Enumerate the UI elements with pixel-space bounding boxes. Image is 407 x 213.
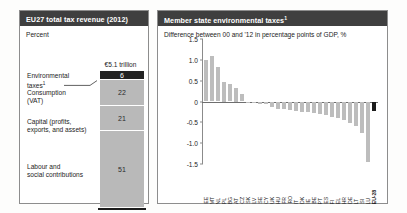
bar	[210, 56, 214, 102]
category-line-1: Consumption	[27, 89, 66, 96]
x-tick-label-group: EEMTNLPLBGATCZSKLVSECYUKHUFRROITDKIEBEPT…	[203, 166, 379, 204]
bar-chart: 1.51.00.50-0.5-1.0-1.5 EEMTNLPLBGATCZSKL…	[158, 33, 389, 205]
bar	[318, 102, 322, 115]
right-panel-header: Member state environmental taxes1	[158, 11, 387, 26]
stack-segment-value: 51	[118, 166, 126, 173]
category-line-2: (VAT)	[27, 97, 43, 104]
left-panel-body: €5.1 trillion 6 22 21 51 E	[20, 38, 148, 213]
category-label-capital: Capital (profits, exports, and assets)	[27, 118, 97, 134]
y-tick-label: -1.5	[187, 161, 198, 168]
stack-segment-environmental: 6	[100, 71, 144, 80]
left-panel-subtitle: Percent	[20, 26, 148, 38]
footnote-marker: 1	[43, 81, 46, 86]
bar-group	[203, 39, 378, 164]
y-tick-label: 1.5	[189, 36, 198, 43]
category-line-2: exports, and assets)	[27, 126, 86, 133]
figure-root: EU27 total tax revenue (2012) Percent €5…	[0, 0, 407, 213]
stacked-bar-caption: €5.1 trillion	[96, 61, 145, 68]
y-tick-label: -1.0	[187, 140, 198, 147]
bar	[324, 102, 328, 116]
panel-eu27-tax-revenue: EU27 total tax revenue (2012) Percent €5…	[19, 10, 149, 204]
bar	[336, 102, 340, 119]
stack-segment-capital: 21	[100, 106, 144, 131]
bar	[300, 102, 304, 112]
bar	[246, 102, 250, 103]
left-panel-header-text: EU27 total tax revenue (2012)	[26, 15, 128, 24]
chart-plot-area: 1.51.00.50-0.5-1.0-1.5	[202, 39, 378, 164]
bar	[288, 102, 292, 110]
stack-segment-value: 21	[118, 115, 126, 122]
bar	[222, 82, 226, 102]
bar	[216, 67, 220, 101]
stack-segment-value: 6	[120, 72, 124, 79]
bar	[330, 102, 334, 117]
left-panel-header: EU27 total tax revenue (2012)	[20, 11, 148, 26]
bar	[354, 102, 358, 126]
category-line-2: social contributions	[27, 171, 83, 178]
category-label-consumption: Consumption (VAT)	[27, 89, 97, 105]
y-tick-label: 0.5	[189, 77, 198, 84]
stack-segment-value: 22	[118, 89, 126, 96]
bar	[252, 102, 256, 103]
x-tick-label: EU-28	[371, 190, 377, 204]
bar	[264, 102, 268, 105]
bar	[306, 102, 310, 113]
bar	[276, 102, 280, 109]
bar	[282, 102, 286, 110]
y-tick-label: -0.5	[187, 119, 198, 126]
bar	[270, 102, 274, 107]
category-line-1: Environmental	[27, 72, 69, 79]
right-panel-header-text: Member state environmental taxes	[164, 16, 284, 25]
stacked-bar: 6 22 21 51	[100, 71, 144, 207]
stacked-bar-baseline	[98, 208, 146, 210]
category-line-1: Labour and	[27, 163, 60, 170]
bar	[372, 102, 376, 111]
y-tick-label: 0	[194, 98, 198, 105]
panel-member-state-env-taxes: Member state environmental taxes1 Differ…	[157, 10, 388, 204]
category-line-2: taxes	[27, 82, 43, 89]
bar	[366, 102, 370, 162]
y-tick-label: 1.0	[189, 56, 198, 63]
bar	[228, 84, 232, 101]
bar	[204, 60, 208, 102]
bar	[240, 94, 244, 101]
bar	[258, 102, 262, 104]
bar	[312, 102, 316, 114]
stack-segment-consumption: 22	[100, 80, 144, 106]
footnote-marker: 1	[284, 15, 287, 21]
bar	[342, 102, 346, 120]
category-label-labour: Labour and social contributions	[27, 163, 97, 179]
bar	[348, 102, 352, 124]
category-label-environmental: Environmental taxes1	[27, 72, 97, 90]
bar	[234, 88, 238, 102]
bar	[294, 102, 298, 111]
stack-segment-labour: 51	[100, 131, 144, 207]
bar	[360, 102, 364, 133]
category-line-1: Capital (profits,	[27, 118, 71, 125]
